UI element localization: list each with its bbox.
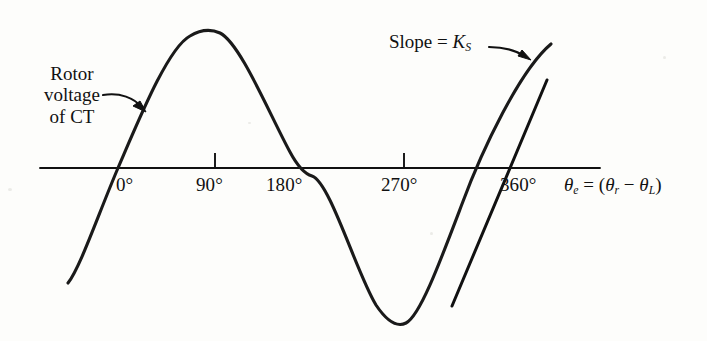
tick-label-270: 270°: [381, 174, 418, 195]
rotor-voltage-label: Rotor voltage of CT: [34, 63, 110, 127]
rotor-voltage-figure: 0° 90° 180° 270° 360° θe = (θr − θL) Rot…: [0, 0, 707, 341]
minus-operator: −: [619, 174, 639, 195]
equals-open-paren: = (: [579, 174, 606, 195]
rotor-voltage-label-line2: voltage: [34, 84, 110, 105]
scan-speckle: [8, 188, 12, 191]
scan-speckle: [248, 122, 251, 124]
scan-speckle: [663, 56, 666, 59]
axis-expression-label: θe = (θr − θL): [564, 174, 662, 197]
sine-plot-svg: [0, 0, 707, 341]
slope-label: Slope = KS: [389, 31, 471, 54]
close-paren: ): [655, 174, 661, 195]
tick-label-90: 90°: [196, 174, 223, 195]
slope-arrowhead-icon: [518, 50, 531, 60]
rotor-voltage-label-line3: of CT: [34, 106, 110, 127]
rotor-voltage-label-line1: Rotor: [34, 63, 110, 84]
theta-e-symbol: θe: [564, 174, 579, 195]
theta-l-symbol: θL: [639, 174, 655, 195]
theta-r-symbol: θr: [605, 174, 619, 195]
tick-label-180: 180°: [266, 174, 303, 195]
tick-label-0: 0°: [116, 174, 133, 195]
scan-speckle: [430, 232, 433, 235]
tick-label-360: 360°: [500, 174, 537, 195]
slope-label-symbol: KS: [453, 31, 472, 52]
slope-label-prefix: Slope =: [389, 31, 453, 52]
sine-curve-rotor-voltage: [68, 31, 551, 325]
